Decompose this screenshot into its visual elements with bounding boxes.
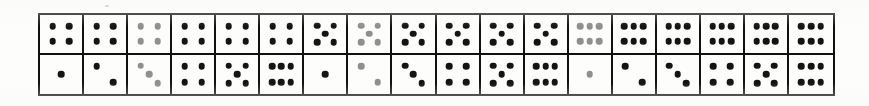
die-pip (242, 23, 249, 30)
die-cell (481, 55, 525, 95)
die-face-1 (569, 55, 611, 95)
die-face-3 (128, 55, 170, 95)
die-cell (40, 55, 84, 95)
die-pip (322, 30, 329, 37)
die-pip (410, 30, 417, 37)
die-pip (709, 23, 716, 30)
die-pip (286, 23, 293, 30)
die-face-1 (40, 55, 82, 95)
die-face-6 (525, 55, 567, 95)
die-pip (542, 30, 549, 37)
die-cell (304, 15, 348, 55)
die-pip (728, 38, 735, 45)
die-pip (798, 23, 805, 30)
die-face-5 (525, 15, 567, 53)
die-cell (172, 15, 216, 55)
die-pip (137, 38, 144, 45)
die-pip (446, 63, 453, 70)
die-pip (507, 22, 514, 29)
die-pip (772, 23, 779, 30)
die-pip (727, 63, 734, 70)
die-pip (463, 39, 470, 46)
die-cell (657, 15, 701, 55)
die-cell (525, 15, 569, 55)
die-pip (234, 71, 241, 78)
die-cell (392, 55, 436, 95)
die-pip (621, 23, 628, 30)
die-pip (498, 30, 505, 37)
die-pip (358, 39, 365, 46)
die-pip (154, 23, 161, 30)
die-pip (366, 30, 373, 37)
die-cell (437, 55, 481, 95)
dice-grid-figure (0, 0, 869, 106)
die-pip (754, 80, 761, 87)
die-face-1 (304, 55, 346, 95)
die-pip (66, 38, 73, 45)
die-pip (49, 23, 56, 30)
die-pip (683, 80, 690, 87)
die-pip (754, 62, 761, 69)
die-pip (507, 62, 514, 69)
die-cell (172, 55, 216, 95)
die-cell (128, 55, 172, 95)
die-face-4 (172, 55, 214, 95)
die-pip (198, 79, 205, 86)
die-face-4 (172, 15, 214, 53)
die-pip (763, 71, 770, 78)
die-face-6 (745, 15, 787, 53)
die-face-2 (348, 55, 390, 95)
die-pip (226, 38, 233, 45)
die-face-6 (657, 15, 699, 53)
die-face-4 (40, 15, 82, 53)
die-pip (278, 63, 285, 70)
die-pip (551, 22, 558, 29)
die-face-4 (84, 15, 126, 53)
die-pip (719, 23, 726, 30)
die-pip (665, 23, 672, 30)
die-face-4 (437, 55, 479, 95)
die-pip (154, 80, 161, 87)
die-pip (542, 79, 549, 86)
die-pip (137, 62, 144, 69)
die-pip (817, 38, 824, 45)
die-pip (270, 38, 277, 45)
die-face-6 (569, 15, 611, 53)
die-cell (216, 15, 260, 55)
die-pip (269, 63, 276, 70)
die-pip (552, 63, 559, 70)
die-cell (745, 15, 789, 55)
die-face-2 (84, 55, 126, 95)
die-face-5 (481, 15, 523, 53)
die-cell (569, 55, 613, 95)
die-pip (666, 62, 673, 69)
die-pip (58, 71, 65, 78)
die-cell (437, 15, 481, 55)
die-pip (710, 79, 717, 86)
die-pip (402, 22, 409, 29)
die-face-3 (392, 55, 434, 95)
die-pip (719, 38, 726, 45)
die-pip (198, 38, 205, 45)
die-pip (817, 63, 824, 70)
die-pip (330, 39, 337, 46)
die-pip (817, 23, 824, 30)
die-pip (507, 80, 514, 87)
die-pip (665, 38, 672, 45)
die-pip (586, 23, 593, 30)
die-pip (542, 63, 549, 70)
die-pip (551, 39, 558, 46)
die-pip (753, 23, 760, 30)
die-cell (84, 15, 128, 55)
die-pip (817, 79, 824, 86)
die-pip (684, 38, 691, 45)
die-cell (701, 15, 745, 55)
die-pip (808, 79, 815, 86)
die-cell (128, 15, 172, 55)
die-pip (640, 23, 647, 30)
die-pip (771, 80, 778, 87)
die-face-2 (613, 55, 655, 95)
die-pip (375, 22, 382, 29)
die-pip (419, 80, 426, 87)
dice-grid (38, 13, 835, 96)
